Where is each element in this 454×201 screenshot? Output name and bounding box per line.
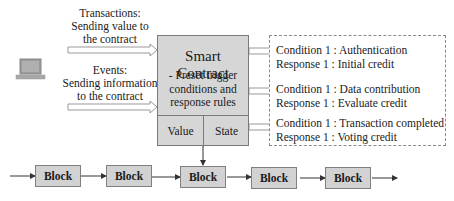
events-desc-1: Sending information <box>60 77 160 90</box>
condition-1: Condition 1 : Authentication <box>276 44 407 58</box>
events-label: Events: Sending information to the contr… <box>60 64 160 103</box>
laptop-icon <box>16 59 45 79</box>
block-1: Block <box>35 165 81 187</box>
block-4: Block <box>251 167 297 189</box>
rule-2: Condition 1 : Data contribution Response… <box>276 83 420 110</box>
rule-1: Condition 1 : Authentication Response 1 … <box>276 44 407 71</box>
block-5: Block <box>325 167 371 189</box>
rule-3: Condition 1 : Transaction completed Resp… <box>276 117 444 144</box>
desc-line-3: response rules <box>158 96 248 110</box>
smart-contract-description: - Preset trigger conditions and response… <box>158 69 248 110</box>
transactions-desc-2: the contract <box>60 33 160 46</box>
desc-line-2: conditions and <box>158 83 248 97</box>
transactions-title: Transactions: <box>60 7 160 20</box>
response-1: Response 1 : Initial credit <box>276 58 407 72</box>
transactions-label: Transactions: Sending value to the contr… <box>60 7 160 46</box>
value-cell: Value <box>158 116 203 147</box>
desc-line-1: - Preset trigger <box>158 69 248 83</box>
rules-box: Condition 1 : Authentication Response 1 … <box>269 35 446 146</box>
condition-2: Condition 1 : Data contribution <box>276 83 420 97</box>
block-2: Block <box>106 165 152 187</box>
smart-contract-box: Smart Contract - Preset trigger conditio… <box>157 35 249 146</box>
smart-contract-storage: Value State <box>158 115 248 147</box>
response-2: Response 1 : Evaluate credit <box>276 97 420 111</box>
transactions-desc-1: Sending value to <box>60 20 160 33</box>
events-desc-2: to the contract <box>60 90 160 103</box>
response-3: Response 1 : Voting credit <box>276 131 444 145</box>
events-title: Events: <box>60 64 160 77</box>
state-cell: State <box>204 116 249 147</box>
condition-3: Condition 1 : Transaction completed <box>276 117 444 131</box>
block-3: Block <box>180 166 226 188</box>
